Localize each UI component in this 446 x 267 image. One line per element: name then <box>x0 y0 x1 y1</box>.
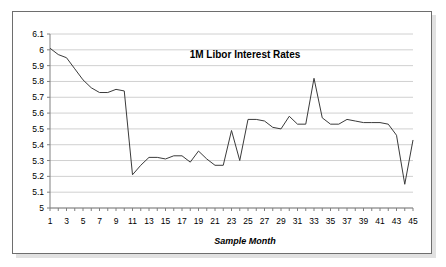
y-axis-tick-label: 5.3 <box>32 156 44 166</box>
x-axis-tick-label: 11 <box>128 216 137 226</box>
y-axis-tick-label: 6 <box>39 45 44 55</box>
x-axis-tick-label: 23 <box>227 216 237 226</box>
y-axis-tick-label: 5.6 <box>32 108 44 118</box>
plot-area: 55.15.25.35.45.55.65.75.85.966.1 1357911… <box>13 12 431 253</box>
x-axis-tick-label: 41 <box>375 216 385 226</box>
y-axis-tick-label: 5.8 <box>32 76 44 86</box>
x-axis-tick-label: 37 <box>342 216 352 226</box>
data-series-line <box>50 48 413 184</box>
gridlines <box>50 34 413 208</box>
y-axis-tick-label: 5.5 <box>32 124 44 134</box>
x-axis-tick-label: 39 <box>359 216 369 226</box>
chart-frame: 55.15.25.35.45.55.65.75.85.966.1 1357911… <box>12 11 432 254</box>
chart-title: 1M Libor Interest Rates <box>190 49 301 60</box>
x-axis-title: Sample Month <box>214 236 276 246</box>
y-axis-tick-label: 5.1 <box>32 187 44 197</box>
x-axis-tick-label: 3 <box>64 216 69 226</box>
x-axis-tick-label: 29 <box>276 216 286 226</box>
x-axis-tick-label: 15 <box>161 216 171 226</box>
y-axis-tick-label: 5.2 <box>32 171 44 181</box>
x-axis-tick-labels: 1357911131517192123252729313335373941434… <box>48 216 418 226</box>
chart-figure: 55.15.25.35.45.55.65.75.85.966.1 1357911… <box>0 0 446 267</box>
axis-lines <box>50 34 413 208</box>
x-axis-tick-label: 1 <box>48 216 53 226</box>
x-axis-tick-label: 9 <box>114 216 119 226</box>
x-axis-tick-label: 45 <box>408 216 418 226</box>
x-axis-tick-label: 7 <box>97 216 102 226</box>
x-axis-tick-label: 21 <box>210 216 220 226</box>
x-axis-tick-label: 19 <box>194 216 204 226</box>
x-axis-tick-label: 25 <box>243 216 253 226</box>
x-axis-tick-label: 33 <box>309 216 319 226</box>
y-axis-tick-label: 5.7 <box>32 92 44 102</box>
y-axis-tick-labels: 55.15.25.35.45.55.65.75.85.966.1 <box>32 29 50 213</box>
y-axis-tick-label: 5 <box>39 203 44 213</box>
x-axis-tick-label: 27 <box>260 216 270 226</box>
line-chart-svg: 55.15.25.35.45.55.65.75.85.966.1 1357911… <box>13 12 431 253</box>
y-axis-tick-label: 5.4 <box>32 140 44 150</box>
x-axis-tick-label: 13 <box>144 216 154 226</box>
x-axis-tick-label: 5 <box>81 216 86 226</box>
x-axis-tick-label: 31 <box>293 216 303 226</box>
y-axis-tick-label: 5.9 <box>32 61 44 71</box>
x-axis-tick-label: 35 <box>326 216 336 226</box>
y-axis-tick-label: 6.1 <box>32 29 44 39</box>
x-axis-tick-label: 43 <box>392 216 402 226</box>
x-axis-tick-label: 17 <box>177 216 187 226</box>
